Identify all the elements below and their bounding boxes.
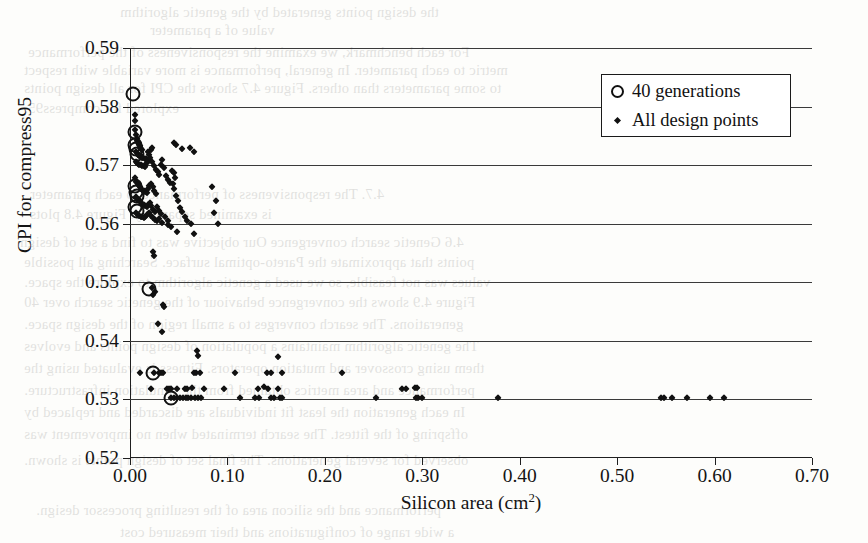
y-axis-tick-label: 0.57	[85, 154, 119, 176]
gridline	[130, 224, 812, 225]
data-point-40-generations	[129, 203, 144, 218]
x-axis-tick	[715, 458, 716, 465]
data-point-all-design-points	[147, 385, 155, 393]
data-point-all-design-points	[194, 352, 202, 360]
y-axis-tick-label: 0.56	[85, 213, 119, 235]
legend-item-all-design-points: All design points	[602, 105, 790, 135]
scatter-chart: 0.520.530.540.550.560.570.580.590.000.10…	[0, 0, 868, 543]
data-point-all-design-points	[150, 252, 158, 260]
data-point-all-design-points	[189, 384, 197, 392]
x-axis-tick	[520, 458, 521, 465]
data-point-all-design-points	[339, 369, 347, 377]
data-point-all-design-points	[173, 228, 181, 236]
y-axis-tick	[123, 48, 130, 49]
data-point-40-generations	[163, 390, 178, 405]
legend: 40 generations All design points	[601, 74, 791, 137]
y-axis-title: CPI for compress95	[14, 97, 36, 253]
y-axis-tick	[123, 399, 130, 400]
data-point-all-design-points	[158, 328, 166, 336]
y-axis-tick	[123, 224, 130, 225]
y-axis-tick-label: 0.54	[85, 330, 119, 352]
x-axis-line	[130, 457, 812, 458]
y-axis-tick-label: 0.55	[85, 271, 119, 293]
x-axis-tick-label: 0.20	[308, 465, 342, 487]
gridline	[130, 165, 812, 166]
data-point-all-design-points	[265, 385, 273, 393]
x-axis-tick	[617, 458, 618, 465]
x-axis-tick-label: 0.60	[698, 465, 732, 487]
y-axis-tick	[123, 341, 130, 342]
data-point-all-design-points	[196, 369, 204, 377]
x-axis-tick-label: 0.00	[113, 465, 147, 487]
data-point-all-design-points	[220, 385, 228, 393]
data-point-all-design-points	[214, 220, 222, 228]
y-axis-tick-label: 0.58	[85, 96, 119, 118]
legend-item-40-generations: 40 generations	[602, 76, 790, 106]
data-point-all-design-points	[152, 191, 160, 199]
data-point-all-design-points	[402, 385, 410, 393]
x-axis-tick-label: 0.70	[795, 465, 829, 487]
x-axis-tick	[325, 458, 326, 465]
data-point-all-design-points	[274, 385, 282, 393]
data-point-40-generations	[146, 366, 161, 381]
filled-diamond-icon	[602, 118, 632, 123]
open-circle-icon	[602, 85, 632, 98]
data-point-all-design-points	[188, 220, 196, 228]
data-point-all-design-points	[210, 209, 218, 217]
x-axis-title-base: Silicon area (cm	[401, 492, 529, 513]
gridline	[130, 282, 812, 283]
data-point-all-design-points	[200, 385, 208, 393]
x-axis-tick	[422, 458, 423, 465]
x-axis-tick-label: 0.10	[210, 465, 244, 487]
y-axis-tick-label: 0.53	[85, 388, 119, 410]
legend-label: All design points	[632, 110, 758, 131]
x-axis-tick-label: 0.30	[405, 465, 439, 487]
x-axis-tick-label: 0.50	[600, 465, 634, 487]
x-axis-tick	[227, 458, 228, 465]
x-axis-tick-label: 0.40	[503, 465, 537, 487]
data-point-all-design-points	[267, 369, 275, 377]
x-axis-tick	[130, 458, 131, 465]
data-point-all-design-points	[208, 184, 216, 192]
legend-label: 40 generations	[632, 81, 740, 102]
data-point-all-design-points	[231, 369, 239, 377]
data-point-all-design-points	[212, 198, 220, 206]
y-axis-line	[130, 48, 131, 458]
data-point-all-design-points	[154, 321, 162, 329]
x-axis-title: Silicon area (cm2)	[401, 492, 542, 514]
data-point-40-generations	[129, 147, 144, 162]
gridline	[130, 341, 812, 342]
y-axis-tick	[123, 282, 130, 283]
y-axis-tick	[123, 165, 130, 166]
data-point-40-generations	[142, 282, 157, 297]
data-point-all-design-points	[171, 185, 179, 193]
data-point-all-design-points	[190, 148, 198, 156]
data-point-40-generations	[126, 86, 141, 101]
gridline	[130, 48, 812, 49]
data-point-all-design-points	[278, 369, 286, 377]
data-point-all-design-points	[274, 353, 282, 361]
y-axis-tick	[123, 458, 130, 459]
data-point-all-design-points	[190, 230, 198, 238]
data-point-all-design-points	[136, 369, 144, 377]
x-axis-title-tail: )	[535, 492, 542, 513]
data-point-all-design-points	[178, 145, 186, 153]
y-axis-tick	[123, 107, 130, 108]
x-axis-tick	[812, 458, 813, 465]
y-axis-tick-label: 0.59	[85, 37, 119, 59]
